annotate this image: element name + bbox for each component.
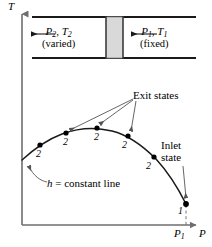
upstream-state-label: P2, T2 (varied) [42,26,75,49]
exit-state-point [125,133,130,138]
curve-points [37,125,189,207]
downstream-state-label: P1, T1 (fixed) [140,26,169,49]
inlet-state-line-2: state [161,151,181,163]
h-constant-leader [29,166,47,182]
x-axis-label: P [199,228,206,240]
inlet-state-leader [183,166,186,198]
inlet-state-annotation: Inlet state [161,139,181,164]
exit-state-point [63,130,68,135]
inlet-state-point [183,201,189,207]
exit-state-point [94,125,99,130]
x-axis-tick-label-p1: P1 [174,228,185,241]
exit-leader-3 [131,101,136,131]
exit-leader-1 [70,99,133,130]
point-label-exit-5: 2 [146,160,151,171]
downstream-pressure-symbol: P [141,25,148,37]
h-constant-annotation: h = constant line [47,178,120,190]
porous-plug [106,17,123,58]
h-constant-text: = constant line [53,177,121,189]
point-label-exit-3: 2 [94,131,99,142]
point-label-inlet: 1 [178,205,183,216]
upstream-condition-label: (varied) [42,38,75,49]
throttling-figure: T P P1 P2, T2 (varied) P1, T1 (fixed) Ex… [0,0,212,247]
exit-state-point [151,154,156,159]
exit-states-leaders [70,99,136,131]
y-axis-label: T [8,1,14,13]
exit-states-annotation: Exit states [133,90,179,102]
downstream-condition-label: (fixed) [140,38,169,49]
exit-state-point [37,142,42,147]
point-label-exit-1: 2 [36,148,41,159]
point-label-exit-2: 2 [63,136,68,147]
point-label-exit-4: 2 [122,139,127,150]
inlet-state-line-1: Inlet [161,139,181,151]
exit-leader-2 [100,100,133,124]
tick-base: P [174,227,181,239]
tick-subscript: 1 [181,232,185,241]
